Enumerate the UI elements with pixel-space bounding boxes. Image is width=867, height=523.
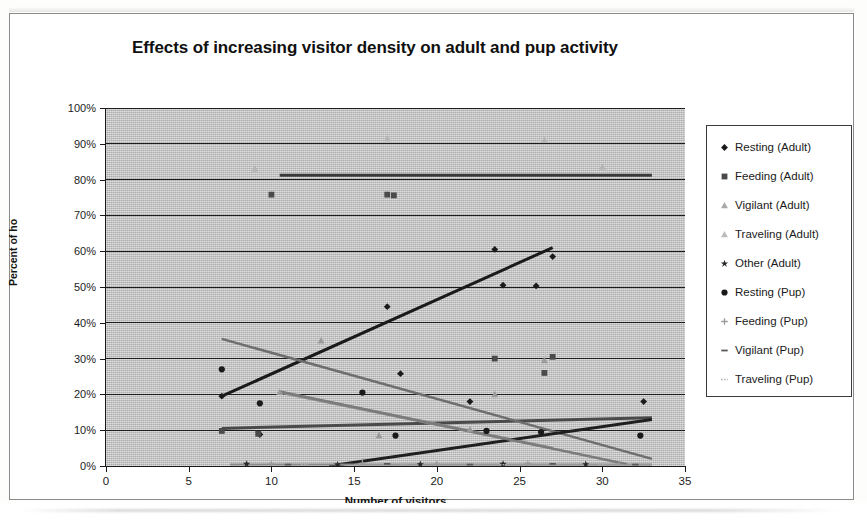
x-axis-tick [437,467,438,472]
scan-artifact-bottom [0,503,867,523]
data-point [721,202,728,208]
chart-title: Effects of increasing visitor density on… [70,38,680,58]
data-point [541,357,548,363]
legend-item-resting-pup[interactable]: Resting (Pup) [707,278,851,307]
data-point [599,163,606,169]
triangle-light-marker-icon [719,229,730,240]
data-point [533,283,540,290]
x-axis-tick-label: 5 [186,475,192,487]
y-axis-line [105,108,106,467]
data-point [376,432,383,438]
y-axis-tick [100,108,105,109]
legend-item-label: Other (Adult) [735,258,801,270]
data-point [384,303,391,310]
x-axis-tick [106,467,107,472]
y-axis-tick [100,180,105,181]
scanned-page: Effects of increasing visitor density on… [0,0,867,523]
x-axis-tick-label: 0 [103,475,109,487]
legend-item-resting-adult[interactable]: Resting (Adult) [707,133,851,162]
data-point [549,463,555,465]
legend-item-vigilant-adult[interactable]: Vigilant (Adult) [707,191,851,220]
data-point [359,390,365,396]
x-axis-tick-label: 30 [596,475,609,487]
legend-item-label: Traveling (Pup) [735,374,813,386]
data-point [721,144,728,151]
chart-legend: Resting (Adult)Feeding (Adult)Vigilant (… [706,125,852,397]
legend-item-label: Resting (Adult) [735,142,811,154]
trendline [222,339,652,459]
legend-item-traveling-adult[interactable]: Traveling (Adult) [707,220,851,249]
data-point [467,426,474,432]
data-point [721,231,728,237]
triangle-marker-icon [719,200,730,211]
y-axis-tick [100,215,105,216]
y-axis-tick-labels: 0%10%20%30%40%50%60%70%80%90%100% [54,14,96,523]
chart-frame: Effects of increasing visitor density on… [9,13,854,500]
data-point [538,429,544,435]
y-axis-tick-label: 10% [56,424,96,436]
y-axis-tick-label: 20% [56,388,96,400]
x-axis-line [105,466,686,467]
x-axis-tick-label: 35 [679,475,692,487]
y-axis-tick [100,466,105,467]
data-point [483,428,489,434]
plot-area [106,108,685,466]
data-point [257,400,263,406]
y-axis-tick [100,287,105,288]
trendline [222,248,553,397]
y-axis-tick-label: 40% [56,317,96,329]
y-axis-tick-label: 90% [56,138,96,150]
legend-item-label: Vigilant (Adult) [735,200,810,212]
circle-marker-icon [719,287,730,298]
diamond-marker-icon [719,142,730,153]
legend-item-traveling-pup[interactable]: Traveling (Pup) [707,365,851,394]
y-axis-tick-label: 100% [56,102,96,114]
y-axis-tick-label: 80% [56,174,96,186]
legend-item-label: Traveling (Adult) [735,229,819,241]
plot-background [106,108,685,466]
x-axis-tick [271,467,272,472]
data-point [541,137,548,143]
data-point [384,192,390,198]
data-point [255,431,261,437]
data-point [640,398,647,405]
series-layer [106,108,685,466]
square-marker-icon [719,171,730,182]
data-point [391,192,397,198]
data-point [251,165,258,171]
data-point [721,289,727,295]
data-point [721,350,727,352]
legend-item-vigilant-pup[interactable]: Vigilant (Pup) [707,336,851,365]
data-point [637,432,643,438]
data-point [549,253,556,260]
dotted-marker-icon [719,374,730,385]
legend-item-feeding-pup[interactable]: Feeding (Pup) [707,307,851,336]
y-axis-tick [100,144,105,145]
data-point [384,135,391,141]
data-point [721,260,728,267]
star-marker-icon [719,258,730,269]
y-axis-tick-label: 30% [56,353,96,365]
data-point [492,356,498,362]
x-axis-tick-label: 10 [265,475,278,487]
y-axis-tick [100,394,105,395]
plus-marker-icon [719,316,730,327]
x-axis-tick [354,467,355,472]
data-point [500,282,507,289]
legend-item-label: Vigilant (Pup) [735,345,804,357]
dash-marker-icon [719,345,730,356]
legend-item-feeding-adult[interactable]: Feeding (Adult) [707,162,851,191]
data-point [384,463,390,465]
data-point [318,337,325,343]
legend-item-other-adult[interactable]: Other (Adult) [707,249,851,278]
data-point [219,428,225,434]
y-axis-tick [100,323,105,324]
data-point [550,354,556,360]
x-axis-tick [685,467,686,472]
y-axis-tick [100,430,105,431]
x-axis-tick-label: 25 [513,475,526,487]
data-point [722,174,728,180]
legend-item-label: Resting (Pup) [735,287,805,299]
x-axis-tick [520,467,521,472]
data-point [397,370,404,377]
